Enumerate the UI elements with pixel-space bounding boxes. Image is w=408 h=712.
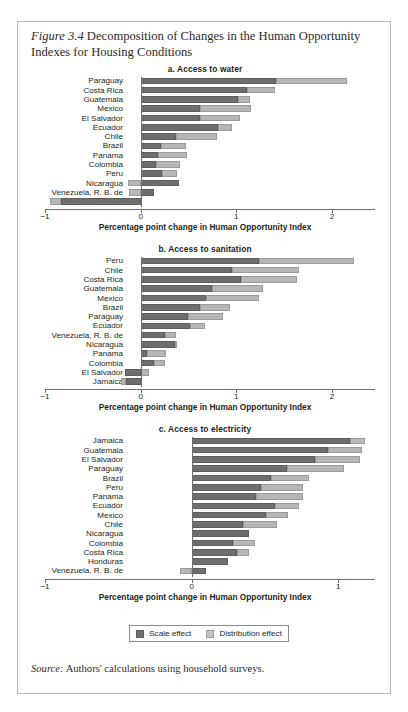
- scale-effect-segment: [61, 198, 140, 205]
- category-label: Costa Rica: [18, 86, 123, 95]
- distribution-effect-segment: [256, 493, 303, 500]
- scale-effect-segment: [192, 558, 229, 565]
- category-label: Paraguay: [18, 76, 123, 85]
- scale-effect-segment: [141, 285, 213, 292]
- scale-effect-segment: [192, 503, 276, 510]
- category-label: Brazil: [18, 141, 123, 150]
- x-axis-line: [45, 389, 375, 390]
- scale-effect-segment: [141, 189, 154, 196]
- bar-row: Paraguay: [18, 77, 392, 85]
- panel-title: b. Access to sanitation: [18, 244, 392, 254]
- category-label: Chile: [18, 266, 123, 275]
- x-axis-tick-label: 1: [234, 392, 239, 401]
- category-label: El Salvador: [18, 455, 123, 464]
- bar-row: Mexico: [18, 294, 392, 302]
- plot-area: ParaguayCosta RicaGuatemalaMexicoEl Salv…: [18, 77, 392, 233]
- distribution-effect-segment: [276, 78, 347, 85]
- distribution-effect-segment: [188, 313, 222, 320]
- distribution-effect-segment: [328, 447, 362, 454]
- scale-effect-segment: [141, 152, 158, 159]
- distribution-effect-segment: [162, 170, 177, 177]
- category-label: Panama: [18, 349, 123, 358]
- distribution-effect-segment: [261, 484, 304, 491]
- scale-effect-segment: [141, 161, 156, 168]
- legend-label-scale: Scale effect: [149, 629, 191, 638]
- bar-row: Mexico: [18, 105, 392, 113]
- category-label: Peru: [18, 256, 123, 265]
- category-label: Guatemala: [18, 446, 123, 455]
- legend-label-distribution: Distribution effect: [219, 629, 281, 638]
- x-axis-line: [45, 579, 375, 580]
- scale-effect-segment: [141, 87, 247, 94]
- scale-effect-segment: [192, 540, 233, 547]
- bar-row: Chile: [18, 266, 392, 274]
- category-label: Peru: [18, 169, 123, 178]
- source-text: Authors' calculations using household su…: [66, 663, 265, 674]
- bar-row: Guatemala: [18, 285, 392, 293]
- bar-row: Colombia: [18, 539, 392, 547]
- scale-effect-segment: [192, 465, 287, 472]
- source-lead: Source:: [31, 663, 64, 674]
- scale-effect-segment: [192, 493, 257, 500]
- scale-effect-segment: [141, 170, 162, 177]
- distribution-effect-segment: [212, 285, 263, 292]
- bar-row: Venezuela, R. B. de: [18, 567, 392, 575]
- zero-line: [141, 77, 142, 207]
- category-label: Jamaica: [18, 377, 123, 386]
- distribution-effect-segment: [200, 304, 230, 311]
- distribution-effect-segment: [315, 456, 360, 463]
- x-axis-tick-label: 0: [138, 212, 143, 221]
- scale-effect-segment: [192, 568, 207, 575]
- category-label: Peru: [18, 483, 123, 492]
- distribution-effect-segment: [50, 198, 61, 205]
- scale-effect-segment: [141, 78, 277, 85]
- scale-effect-segment: [192, 512, 267, 519]
- scale-effect-segment: [141, 258, 260, 265]
- distribution-effect-segment: [237, 549, 249, 556]
- category-label: Panama: [18, 492, 123, 501]
- scale-effect-segment: [192, 475, 271, 482]
- bar-row: Mexico: [18, 511, 392, 519]
- bar-row: Peru: [18, 170, 392, 178]
- category-label: Jamaica: [18, 436, 123, 445]
- x-axis-title: Percentage point change in Human Opportu…: [18, 592, 392, 602]
- x-axis-title: Percentage point change in Human Opportu…: [18, 222, 392, 232]
- scale-effect-segment: [192, 438, 350, 445]
- bar-row: Venezuela, R. B. de: [18, 331, 392, 339]
- distribution-effect-segment: [161, 143, 186, 150]
- distribution-effect-segment: [259, 258, 354, 265]
- x-axis-tick-label: −1: [40, 212, 49, 221]
- bar-row: Brazil: [18, 142, 392, 150]
- chart-panel-2: b. Access to sanitationPeruChileCosta Ri…: [18, 244, 392, 413]
- x-axis-tick-label: −1: [40, 582, 49, 591]
- x-axis-tick-label: 1: [234, 212, 239, 221]
- bar-row: Costa Rica: [18, 276, 392, 284]
- x-axis-tick-label: 0: [189, 582, 194, 591]
- bar-rows: PeruChileCosta RicaGuatemalaMexicoBrazil…: [18, 257, 392, 386]
- bar-row: Panama: [18, 151, 392, 159]
- chart-panel-3: c. Access to electricityJamaicaGuatemala…: [18, 424, 392, 603]
- x-axis-tick-label: 2: [330, 392, 335, 401]
- category-label: Brazil: [18, 474, 123, 483]
- category-label: Colombia: [18, 539, 123, 548]
- x-axis-tick-label: −1: [40, 392, 49, 401]
- distribution-effect-segment: [165, 332, 176, 339]
- scale-effect-segment: [141, 350, 148, 357]
- category-label: Ecuador: [18, 321, 123, 330]
- bar-row: Costa Rica: [18, 86, 392, 94]
- x-axis-line: [45, 209, 375, 210]
- category-label: Costa Rica: [18, 548, 123, 557]
- bar-row: Ecuador: [18, 502, 392, 510]
- distribution-effect-segment: [180, 568, 192, 575]
- bar-row: Peru: [18, 257, 392, 265]
- scale-effect-segment: [141, 133, 176, 140]
- chart-panel-1: a. Access to waterParaguayCosta RicaGuat…: [18, 64, 392, 233]
- scale-effect-segment: [192, 530, 249, 537]
- scale-effect-segment: [141, 124, 218, 131]
- scale-effect-segment: [141, 295, 206, 302]
- distribution-effect-swatch-icon: [206, 630, 214, 638]
- category-label: Nicaragua: [18, 179, 123, 188]
- category-label: Nicaragua: [18, 340, 123, 349]
- figure-number: Figure 3.4: [31, 29, 84, 43]
- distribution-effect-segment: [350, 438, 365, 445]
